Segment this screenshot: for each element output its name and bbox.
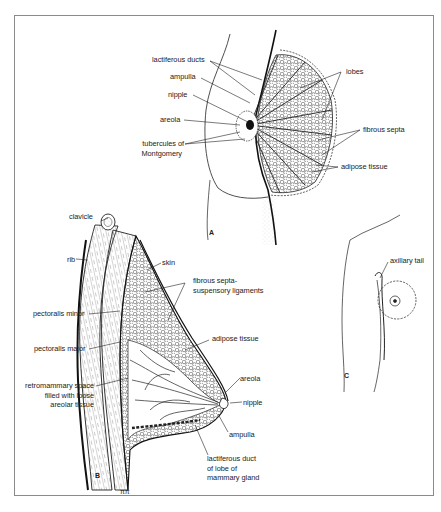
panel-b-drawing: ππ — [76, 214, 242, 495]
label-nipple: nipple — [168, 90, 187, 100]
label-clavicle: clavicle — [69, 212, 93, 222]
label-nipple-b: nipple — [243, 398, 262, 408]
panel-a-drawing — [184, 30, 360, 245]
label-tubercules-line2: Montgomery — [132, 149, 182, 159]
label-fibrous-septa: fibrous septa — [363, 125, 405, 135]
label-skin: skin — [162, 258, 175, 268]
label-pectoralis-minor: pectoralis minor — [33, 309, 84, 319]
label-areola-b: areola — [240, 374, 260, 384]
label-retromammary-line2: filled with loose — [18, 391, 94, 401]
label-tubercules-line1: tubercules of — [132, 139, 184, 149]
panel-label-b: B — [95, 472, 100, 479]
panel-label-a: A — [209, 229, 214, 236]
label-retromammary-line3: areolar tissue — [18, 400, 94, 410]
label-pectoralis-major: pectoralis major — [34, 344, 85, 354]
label-fibrous-septa-b-line2: suspensory ligaments — [193, 286, 263, 296]
label-adipose-tissue-a: adipose tissue — [341, 162, 388, 172]
label-rib: rib — [67, 255, 75, 265]
label-retromammary-line1: retromammary space — [18, 381, 94, 391]
label-ampulla: ampulla — [170, 72, 196, 82]
label-lactiferous-duct-line2: of lobe of — [207, 464, 237, 474]
label-lactiferous-ducts: lactiferous ducts — [152, 55, 205, 65]
label-lobes: lobes — [346, 67, 363, 77]
label-areola: areola — [160, 115, 180, 125]
panel-c-drawing — [342, 215, 416, 392]
label-lactiferous-duct-line1: lactiferous duct — [207, 454, 256, 464]
label-lactiferous-duct-line3: mammary gland — [207, 473, 259, 483]
label-fibrous-septa-b-line1: fibrous septa- — [193, 276, 237, 286]
label-axillary-tail: axillary tail — [390, 256, 424, 266]
label-adipose-tissue-b: adipose tissue — [212, 334, 259, 344]
svg-text:ππ: ππ — [120, 488, 130, 495]
label-ampulla-b: ampulla — [229, 430, 255, 440]
panel-label-c: C — [344, 372, 349, 379]
